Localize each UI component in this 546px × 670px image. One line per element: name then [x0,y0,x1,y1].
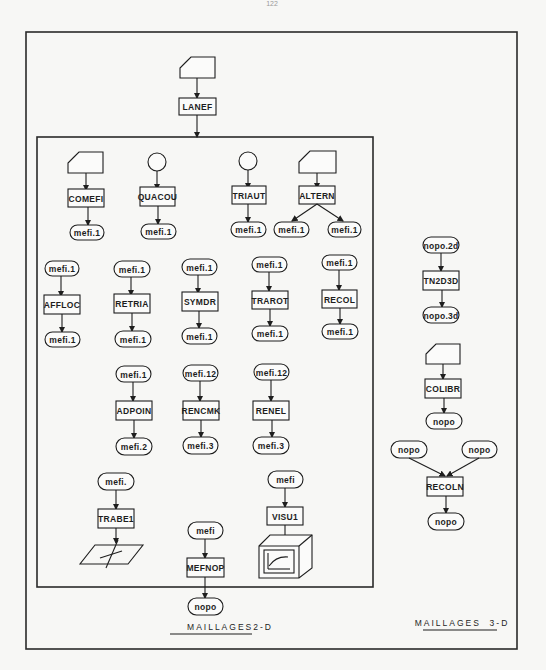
svg-text:nopo: nopo [433,417,455,427]
process-retria: RETRIA [114,294,150,313]
svg-text:mefi.1: mefi.1 [326,258,352,268]
data-mefi: mefi.1 [231,222,266,237]
data-mefi: mefi.1 [141,224,176,239]
svg-text:ALTERN: ALTERN [299,191,335,201]
svg-text:nopo.2d: nopo.2d [423,241,458,251]
data-mefi: mefi.1 [274,222,309,237]
svg-text:nopo: nopo [195,602,217,612]
svg-text:mefi.1: mefi.1 [331,225,357,235]
svg-text:mefi: mefi [276,475,295,485]
data-nopo: nopo [391,441,427,458]
data-mefi: mefi.1 [182,328,217,344]
data-nopo-2d: nopo.2d [423,237,459,253]
process-adpoin: ADPOIN [116,401,152,420]
process-colibr: COLIBR [425,379,461,398]
data-nopo: nopo [426,413,462,429]
data-nopo: nopo [428,513,464,530]
svg-text:RETRIA: RETRIA [115,299,148,309]
process-mefnop: MEFNOP [186,558,224,577]
process-trabe1: TRABE1 [98,509,134,528]
svg-text:mefi.12: mefi.12 [185,369,216,379]
data-nopo: nopo [188,598,223,615]
data-mefi: mefi.12 [254,364,289,380]
process-affloc: AFFLOC [44,295,80,314]
data-mefi: mefi.12 [183,365,218,381]
svg-text:mefi.1: mefi.1 [257,329,283,339]
svg-text:mefi.1: mefi.1 [74,228,100,238]
svg-text:LANEF: LANEF [183,102,213,112]
svg-text:RENCMK: RENCMK [181,406,221,416]
process-rencmk: RENCMK [181,401,221,420]
caption-maillages-3d: MAILLAGES 3-D [415,618,510,628]
svg-text:RECOL: RECOL [324,295,355,305]
data-mefi: mefi.3 [183,437,218,454]
flowchart-canvas: 122 LANEF COMEFI mefi.1 QUACOU mefi.1 TR [0,0,546,670]
circle-input-icon [239,152,257,170]
svg-text:mefi.1: mefi.1 [235,225,261,235]
data-mefi: mefi [188,522,223,539]
plane-icon [80,540,143,568]
svg-text:TRIAUT: TRIAUT [233,191,266,201]
data-mefi: mefi.1 [182,259,217,275]
svg-text:mefi.1: mefi.1 [256,260,282,270]
svg-text:mefi.1: mefi.1 [120,370,146,380]
data-mefi: mefi.1 [70,225,104,240]
svg-text:AFFLOC: AFFLOC [44,300,80,310]
svg-text:mefi.1: mefi.1 [278,225,304,235]
data-mefi: mefi.1 [45,261,79,276]
svg-text:nopo: nopo [469,445,491,455]
svg-text:mefi.1: mefi.1 [49,264,75,274]
svg-text:mefi.1: mefi.1 [186,263,212,273]
svg-text:TN2D3D: TN2D3D [424,276,459,286]
svg-text:COLIBR: COLIBR [426,384,460,394]
svg-text:QUACOU: QUACOU [138,192,178,202]
svg-text:mefi: mefi [196,526,215,536]
svg-text:mefi.2: mefi.2 [121,442,147,452]
process-trarot: TRAROT [251,291,289,309]
data-mefi: mefi.1 [252,257,287,272]
svg-text:TRAROT: TRAROT [251,296,289,306]
process-tn2d3d: TN2D3D [423,271,459,290]
circle-input-icon [148,153,166,171]
svg-text:mefi.: mefi. [105,477,126,487]
svg-text:mefi.1: mefi.1 [120,335,146,345]
data-mefi: mefi.1 [116,366,151,382]
process-symdr: SYMDR [182,292,218,311]
data-mefi: mefi.1 [252,326,288,341]
data-mefi: mefi.1 [115,331,151,347]
svg-text:mefi.1: mefi.1 [49,335,75,345]
svg-text:TRABE1: TRABE1 [98,514,134,524]
data-nopo: nopo [462,441,497,458]
data-mefi: mefi. [98,473,134,490]
process-recoln: RECOLN [426,477,464,496]
process-recol: RECOL [322,290,357,308]
data-mefi: mefi.3 [253,437,289,454]
svg-text:RECOLN: RECOLN [426,482,464,492]
card-icon [426,344,460,364]
data-mefi: mefi.1 [322,255,357,270]
process-altern: ALTERN [299,186,335,204]
svg-text:RENEL: RENEL [256,406,286,416]
process-quacou: QUACOU [138,187,178,206]
svg-text:mefi.1: mefi.1 [327,327,353,337]
card-icon [299,151,336,173]
svg-text:SYMDR: SYMDR [184,297,216,307]
svg-text:MEFNOP: MEFNOP [186,563,224,573]
card-icon [68,152,103,173]
svg-text:COMEFI: COMEFI [69,194,104,204]
data-mefi: mefi.1 [328,222,361,237]
display-terminal-icon [259,535,312,578]
top-input-card [180,57,215,78]
svg-text:mefi.12: mefi.12 [256,368,287,378]
process-renel: RENEL [253,401,289,420]
svg-text:ADPOIN: ADPOIN [117,406,152,416]
process-triaut: TRIAUT [232,186,266,204]
svg-text:nopo: nopo [435,517,457,527]
svg-text:mefi.1: mefi.1 [119,265,145,275]
process-lanef: LANEF [179,98,216,115]
data-mefi: mefi [268,471,303,488]
svg-text:mefi.1: mefi.1 [145,227,171,237]
data-mefi: mefi.1 [322,324,358,339]
svg-text:mefi.3: mefi.3 [258,441,284,451]
process-comefi: COMEFI [68,189,104,207]
